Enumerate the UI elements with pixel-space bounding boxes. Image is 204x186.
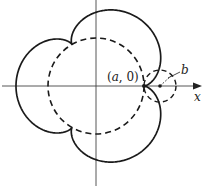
cusp-point [142, 84, 146, 88]
x-axis-label: x [194, 90, 201, 104]
x-axis-arrow-icon [193, 83, 202, 90]
radius-label: b [181, 63, 189, 77]
epicycloid-diagram: (a, 0) b x [0, 0, 204, 186]
point-label: (a, 0) [107, 70, 139, 84]
